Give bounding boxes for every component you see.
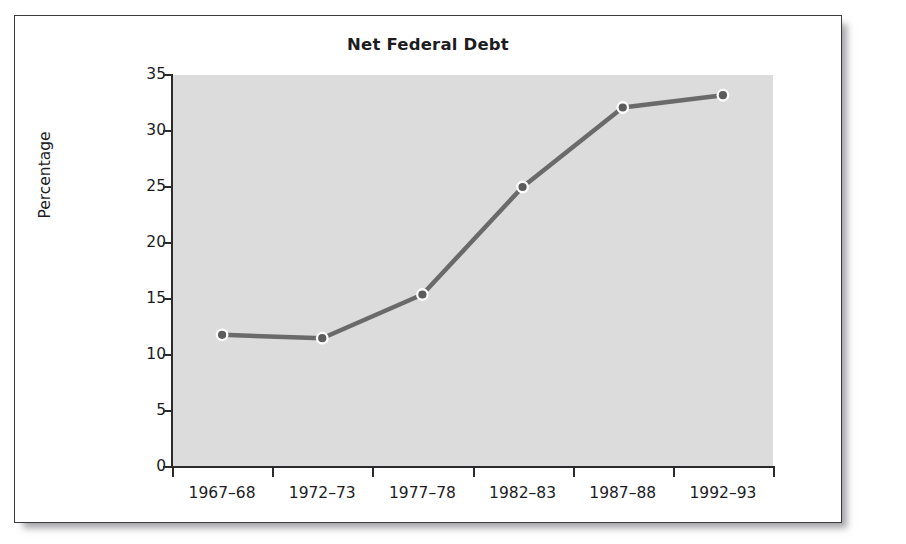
x-tick-mark (773, 466, 775, 477)
data-point (619, 103, 627, 111)
data-point (418, 290, 426, 298)
x-tick-mark (473, 466, 475, 477)
chart-figure-frame: Net Federal Debt 05101520253035 1967–681… (14, 15, 842, 523)
x-tick-label: 1967–68 (189, 484, 256, 502)
x-tick-label: 1987–88 (589, 484, 656, 502)
data-point (518, 183, 526, 191)
data-point (218, 331, 226, 339)
data-series-net-federal-debt (172, 75, 773, 467)
x-tick-label: 1972–73 (289, 484, 356, 502)
x-tick-mark (573, 466, 575, 477)
x-tick-mark (172, 466, 174, 477)
data-point (318, 334, 326, 342)
x-tick-mark (272, 466, 274, 477)
y-axis-title: Percentage (36, 75, 54, 275)
data-point (719, 91, 727, 99)
chart-title: Net Federal Debt (15, 35, 841, 54)
x-tick-mark (673, 466, 675, 477)
series-line (222, 95, 723, 338)
series-markers (216, 89, 730, 345)
x-tick-mark (372, 466, 374, 477)
x-tick-label: 1992–93 (689, 484, 756, 502)
x-tick-label: 1977–78 (389, 484, 456, 502)
x-tick-label: 1982–83 (489, 484, 556, 502)
